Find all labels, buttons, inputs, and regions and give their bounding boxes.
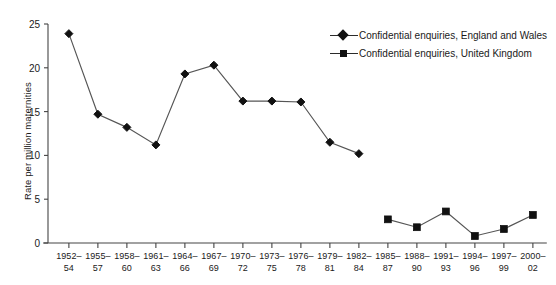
x-tick-label-7: 1973–75	[256, 251, 288, 274]
x-tick-label-13: 1991–93	[430, 251, 462, 274]
x-tick-label-1: 1955–57	[82, 251, 114, 274]
x-tick-label-15: 1997–99	[488, 251, 520, 274]
legend-diamond-marker-icon	[330, 28, 358, 42]
x-tick-label-8: 1976–78	[285, 251, 317, 274]
chart-legend: Confidential enquiries, England and Wale…	[330, 26, 547, 62]
x-tick-label-3: 1961–63	[140, 251, 172, 274]
legend-square-marker-icon	[330, 46, 358, 60]
x-tick-label-6: 1970–72	[227, 251, 259, 274]
x-axis-ticks	[69, 243, 533, 248]
data-series-england-wales	[65, 30, 363, 158]
y-axis-ticks	[44, 24, 48, 243]
legend-label-england-wales: Confidential enquiries, England and Wale…	[358, 30, 547, 41]
chart-container: Rate per million maternities 0 5 10 15 2…	[0, 0, 556, 285]
x-tick-label-16: 2000–02	[517, 251, 549, 274]
x-tick-label-12: 1988–90	[401, 251, 433, 274]
x-tick-label-14: 1994–96	[459, 251, 491, 274]
legend-item-united-kingdom: Confidential enquiries, United Kingdom	[330, 44, 547, 62]
x-tick-label-4: 1964–66	[169, 251, 201, 274]
x-tick-label-9: 1979–81	[314, 251, 346, 274]
legend-item-england-wales: Confidential enquiries, England and Wale…	[330, 26, 547, 44]
x-tick-label-10: 1982–84	[343, 251, 375, 274]
data-series-united-kingdom	[384, 208, 536, 239]
x-tick-label-2: 1958–60	[111, 251, 143, 274]
x-tick-label-11: 1985–87	[372, 251, 404, 274]
legend-label-united-kingdom: Confidential enquiries, United Kingdom	[358, 48, 532, 59]
x-tick-label-0: 1952–54	[53, 251, 85, 274]
x-tick-label-5: 1967–69	[198, 251, 230, 274]
